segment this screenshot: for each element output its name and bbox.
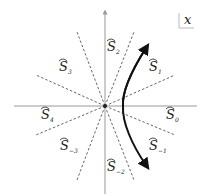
svg-text:S: S (149, 138, 158, 153)
variable-box: x (179, 12, 194, 28)
sector-label-s-2: S −2 (107, 159, 125, 175)
sector-label-s-1: S −1 (149, 138, 167, 154)
svg-text:−1: −1 (158, 147, 167, 154)
sector-label-s2: S 2 (107, 39, 120, 55)
sector-label-s3: S 3 (59, 59, 72, 75)
svg-text:0: 0 (175, 116, 179, 123)
svg-text:−2: −2 (116, 168, 125, 175)
variable-label: x (184, 12, 192, 27)
svg-text:S: S (107, 39, 116, 54)
sector-diagram: x S 2 S 3 S 1 S 4 S 0 S −3 (0, 0, 207, 196)
origin-point (103, 104, 107, 108)
sector-label-s0: S 0 (166, 107, 179, 123)
sector-label-s-3: S −3 (60, 138, 78, 154)
axes (14, 12, 197, 194)
svg-text:S: S (166, 107, 175, 122)
sector-label-s1: S 1 (149, 59, 162, 75)
svg-text:−3: −3 (69, 147, 78, 154)
sector-label-s4: S 4 (41, 107, 54, 123)
contour-curve-upper (123, 48, 146, 106)
svg-text:4: 4 (49, 116, 54, 123)
svg-text:S: S (41, 107, 50, 122)
svg-text:S: S (107, 159, 116, 174)
svg-text:2: 2 (115, 48, 120, 55)
svg-text:S: S (59, 59, 68, 74)
svg-text:S: S (149, 59, 158, 74)
svg-text:3: 3 (68, 68, 72, 75)
svg-text:S: S (60, 138, 69, 153)
svg-text:1: 1 (158, 68, 162, 75)
